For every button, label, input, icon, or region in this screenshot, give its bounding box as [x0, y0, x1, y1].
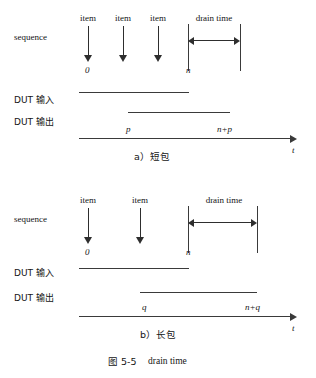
panel-a-dut-in-label: DUT 输入 [14, 96, 54, 105]
panel-b-out-start-marker: q [142, 303, 147, 312]
panel-b-item-label-2: item [132, 196, 148, 205]
panel-a-subcaption: a）短包 [134, 152, 170, 162]
panel-a-dut-in-line [79, 92, 189, 93]
panel-b-item-label-1: item [80, 196, 96, 205]
figure-drain-time: item item item drain time sequence 0 n D… [0, 0, 316, 378]
panel-a-item-arrow-3 [154, 26, 163, 62]
panel-a-time-axis-label: t [292, 146, 295, 155]
panel-a-drain-tick-end [240, 24, 241, 71]
panel-b-item-arrow-1 [84, 208, 93, 244]
panel-a-drain-tick-start [188, 24, 189, 71]
panel-b-dut-out-line [140, 292, 257, 293]
panel-b-drain-time-label: drain time [206, 196, 243, 205]
panel-a-out-start-marker: p [126, 125, 131, 134]
panel-b-dut-out-label: DUT 输出 [14, 294, 54, 303]
panel-a-dut-out-label: DUT 输出 [14, 118, 54, 127]
figure-caption-number: 图 5-5 [108, 357, 137, 367]
panel-a-marker-zero: 0 [85, 66, 90, 75]
panel-a-item-arrow-1 [84, 26, 93, 62]
panel-a-out-end-marker: n+p [217, 125, 232, 134]
panel-a-item-label-3: item [150, 14, 166, 23]
panel-a-drain-measure-arrow [188, 36, 240, 45]
panel-a-item-label-1: item [80, 14, 96, 23]
panel-b-marker-zero: 0 [85, 248, 90, 257]
panel-a-marker-n: n [186, 66, 191, 75]
panel-b-drain-tick-start [188, 206, 189, 253]
panel-a-time-axis [79, 134, 297, 143]
panel-b-sequence-label: sequence [14, 215, 47, 224]
panel-b-dut-in-line [79, 268, 189, 269]
panel-b-time-axis-label: t [292, 324, 295, 333]
panel-a-item-label-2: item [115, 14, 131, 23]
panel-a-sequence-label: sequence [14, 33, 47, 42]
panel-a-item-arrow-2 [119, 26, 128, 62]
panel-b-drain-tick-end [257, 206, 258, 253]
panel-b-subcaption: b）长包 [140, 330, 176, 340]
panel-b-dut-in-label: DUT 输入 [14, 269, 54, 278]
panel-b-out-end-marker: n+q [245, 303, 260, 312]
panel-a-drain-time-label: drain time [196, 14, 233, 23]
figure-caption-title: drain time [148, 357, 187, 367]
panel-b-drain-measure-arrow [188, 218, 257, 227]
panel-b-time-axis [79, 312, 297, 321]
panel-b-item-arrow-2 [136, 208, 145, 244]
panel-b-marker-n: n [186, 248, 191, 257]
panel-a-dut-out-line [128, 112, 230, 113]
